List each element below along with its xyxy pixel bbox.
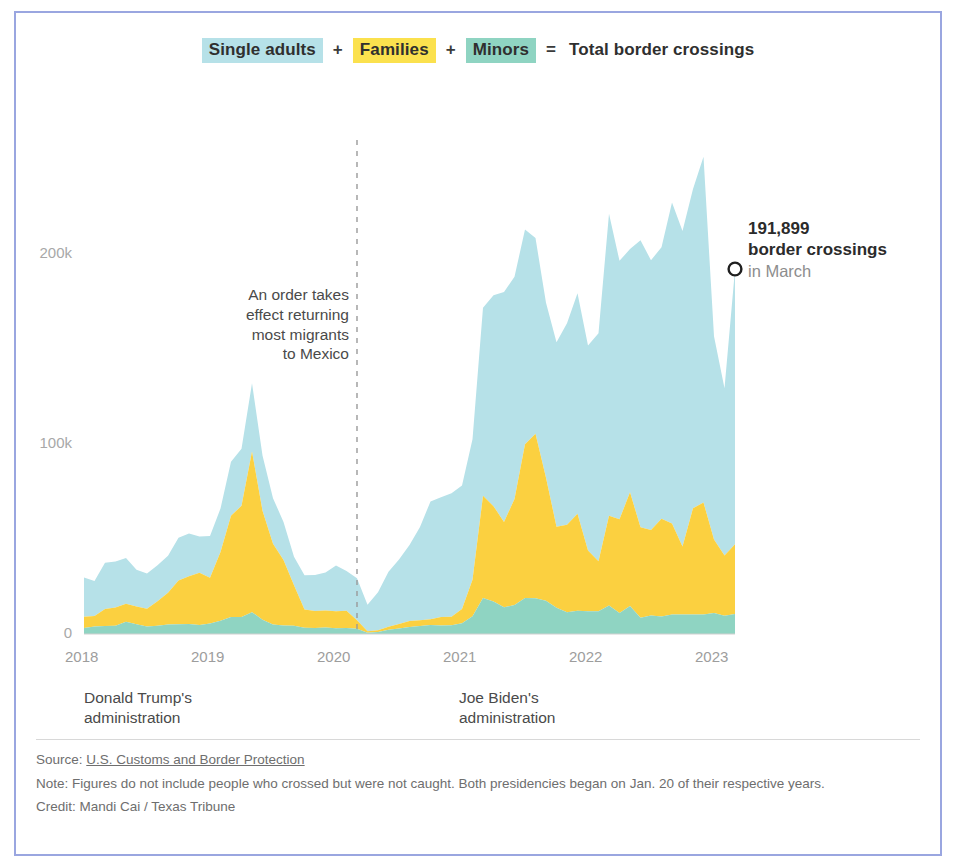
footer-source: Source: U.S. Customs and Border Protecti… <box>36 748 920 772</box>
admin-label-biden: Joe Biden's administration <box>459 688 556 728</box>
latest-value-callout: 191,899 border crossings in March <box>748 219 948 282</box>
admin-label-trump: Donald Trump's administration <box>84 688 192 728</box>
annotation-line-3: most migrants <box>252 326 349 343</box>
policy-annotation: An order takes effect returning most mig… <box>144 0 349 120</box>
footer-note: Note: Figures do not include people who … <box>36 772 920 796</box>
annotation-line-1: An order takes <box>248 286 349 303</box>
y-axis-tick-200k: 200k <box>12 244 72 261</box>
annotation-line-2: effect returning <box>246 306 349 323</box>
callout-point-marker-icon <box>729 263 742 276</box>
admin-trump-line-2: administration <box>84 709 181 726</box>
x-axis-tick-2023: 2023 <box>695 648 728 665</box>
y-axis-tick-100k: 100k <box>12 434 72 451</box>
callout-value: 191,899 <box>748 219 948 240</box>
footer-divider <box>36 739 920 740</box>
policy-annotation-text: An order takes effect returning most mig… <box>149 285 349 364</box>
footer-source-prefix: Source: <box>36 752 86 767</box>
annotation-line-4: to Mexico <box>283 345 349 362</box>
x-axis-tick-2020: 2020 <box>317 648 350 665</box>
admin-biden-line-1: Joe Biden's <box>459 689 539 706</box>
footer-credit: Credit: Mandi Cai / Texas Tribune <box>36 795 920 819</box>
stacked-area-chart: 200k 100k 0 2018 2019 2020 2021 2022 202… <box>0 0 956 760</box>
x-axis-tick-2019: 2019 <box>191 648 224 665</box>
chart-footer: Source: U.S. Customs and Border Protecti… <box>36 748 920 819</box>
callout-period: in March <box>748 261 948 281</box>
admin-biden-line-2: administration <box>459 709 556 726</box>
admin-trump-line-1: Donald Trump's <box>84 689 192 706</box>
infographic-page: Single adults + Families + Minors = Tota… <box>0 0 956 866</box>
x-axis-tick-2022: 2022 <box>569 648 602 665</box>
x-axis-tick-2021: 2021 <box>443 648 476 665</box>
x-axis-tick-2018: 2018 <box>65 648 98 665</box>
callout-label: border crossings <box>748 240 948 261</box>
source-link[interactable]: U.S. Customs and Border Protection <box>86 752 304 767</box>
y-axis-tick-0: 0 <box>12 624 72 641</box>
